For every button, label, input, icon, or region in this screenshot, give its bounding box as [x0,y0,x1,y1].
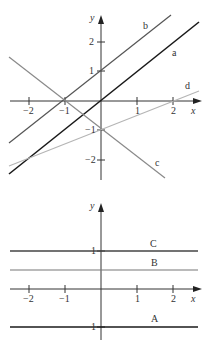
label-a: a [172,47,177,58]
x-tick-1: 1 [135,293,140,304]
x-tick-m2: −2 [23,105,34,116]
line-a [9,22,199,174]
x-tick-1: 1 [135,105,140,116]
x-axis-label: x [190,293,196,304]
figure: y x b a d c −2 −1 1 2 2 1 −1 −2 y x C [0,0,206,340]
x-tick-m1: −1 [59,293,70,304]
y-tick-m2: −2 [85,154,96,165]
label-A: A [151,313,159,324]
y-tick-m1: −1 [85,124,96,135]
y-tick-m1: 1 [91,321,96,332]
x-tick-2: 2 [171,105,176,116]
x-axis-arrow-icon [193,286,202,292]
y-tick-1: 1 [91,245,96,256]
line-d [9,91,199,166]
x-tick-m1: −1 [59,105,70,116]
x-axis-arrow-icon [193,98,202,104]
y-axis-arrow-icon [98,203,104,212]
y-axis-arrow-icon [98,15,104,24]
y-axis-label: y [89,12,95,23]
y-axis-label: y [89,200,95,211]
x-axis-label: x [190,105,196,116]
label-d: d [185,80,190,91]
label-C: C [150,238,157,249]
y-tick-1: 1 [89,65,94,76]
top-chart: y x b a d c −2 −1 1 2 2 1 −1 −2 [9,12,202,180]
x-tick-2: 2 [171,293,176,304]
bottom-chart: y x C B A −2 −1 1 2 1 1 [10,200,202,340]
label-B: B [151,257,158,268]
y-tick-2: 2 [89,36,94,47]
x-tick-m2: −2 [23,293,34,304]
label-c: c [155,157,160,168]
label-b: b [143,20,148,31]
